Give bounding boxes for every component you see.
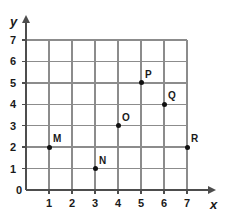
- point-label-r: R: [191, 134, 198, 144]
- data-point-o: [116, 123, 121, 128]
- x-tick-label: 4: [111, 198, 125, 209]
- coordinate-plane-figure: 01234567 1234567 MNOPQR x y: [0, 0, 236, 212]
- y-tick-label: 7: [6, 35, 20, 46]
- coordinate-plane-svg: [0, 0, 236, 212]
- data-point-r: [185, 145, 190, 150]
- axis-ticks: [22, 40, 187, 194]
- y-axis-label: y: [10, 15, 17, 28]
- y-tick-label: 2: [6, 142, 20, 153]
- grid-lines: [26, 40, 187, 190]
- point-label-q: Q: [168, 91, 176, 101]
- point-label-p: P: [145, 70, 152, 80]
- data-point-n: [93, 166, 98, 171]
- x-tick-label: 2: [65, 198, 79, 209]
- y-tick-label: 3: [6, 121, 20, 132]
- y-tick-label: 6: [6, 56, 20, 67]
- x-tick-label: 5: [134, 198, 148, 209]
- y-axis-arrow-icon: [22, 15, 30, 23]
- x-tick-label: 6: [157, 198, 171, 209]
- point-label-n: N: [99, 156, 106, 166]
- x-tick-label: 0: [12, 185, 26, 196]
- y-tick-label: 1: [6, 164, 20, 175]
- y-tick-label: 4: [6, 99, 20, 110]
- y-tick-label: 5: [6, 78, 20, 89]
- data-point-q: [162, 102, 167, 107]
- data-point-p: [139, 80, 144, 85]
- x-axis-label: x: [210, 198, 217, 211]
- point-label-m: M: [53, 134, 61, 144]
- x-tick-label: 1: [42, 198, 56, 209]
- data-point-m: [47, 145, 52, 150]
- x-axis-arrow-icon: [208, 186, 216, 194]
- x-tick-label: 7: [180, 198, 194, 209]
- x-tick-label: 3: [88, 198, 102, 209]
- point-label-o: O: [122, 113, 130, 123]
